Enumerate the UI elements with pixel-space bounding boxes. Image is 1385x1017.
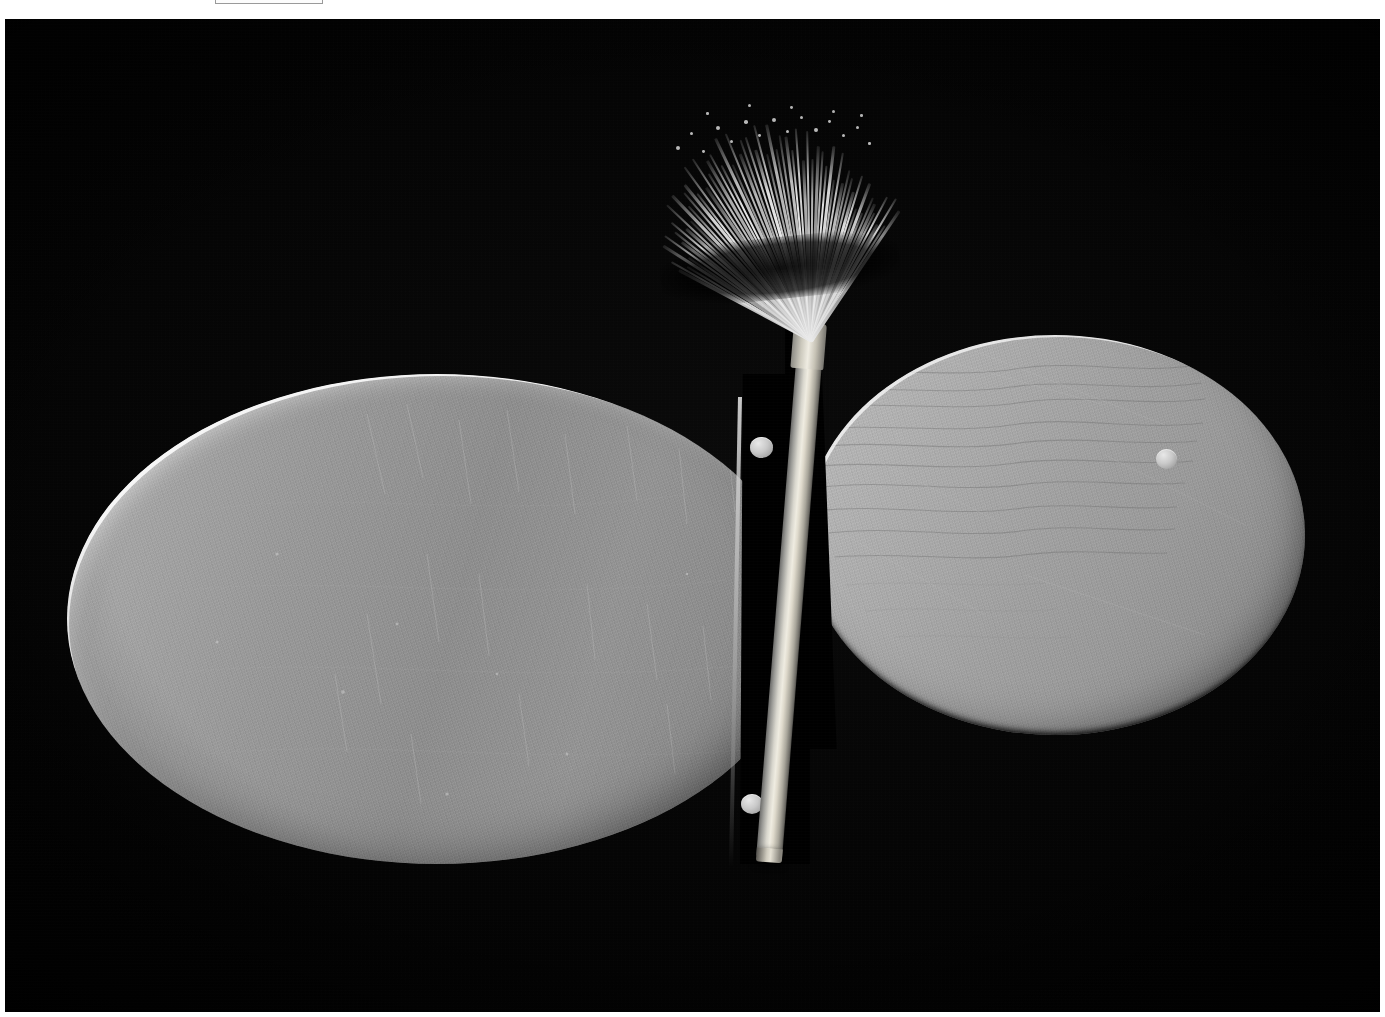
photograph-frame bbox=[5, 19, 1380, 1012]
photograph bbox=[5, 19, 1380, 1012]
bristle-tip-speck bbox=[856, 126, 859, 129]
bristle-tip-speck bbox=[702, 150, 705, 153]
handle-tip bbox=[756, 847, 783, 863]
bristle-tip-speck bbox=[690, 132, 693, 135]
rivet-left-top bbox=[750, 437, 773, 458]
bristle-tip-speck bbox=[730, 140, 733, 143]
bristle-tip-speck bbox=[772, 118, 776, 122]
bristle-tip-speck bbox=[832, 110, 835, 113]
bristle-tip-speck bbox=[800, 116, 803, 119]
right-plate bbox=[805, 335, 1305, 735]
bristle-tip-speck bbox=[786, 130, 789, 133]
bristle-tip-speck bbox=[716, 126, 720, 130]
left-plate bbox=[67, 374, 807, 864]
bristle-tip-speck bbox=[706, 112, 709, 115]
bristle-tip-speck bbox=[748, 104, 751, 107]
bristle-tip-speck bbox=[758, 134, 761, 137]
bristle-tip-speck bbox=[860, 114, 863, 117]
rivet-right bbox=[1156, 449, 1177, 469]
caption-box: …y…, …ng… bbox=[215, 0, 323, 4]
bristle-tip-speck bbox=[842, 134, 845, 137]
caption-strip: …y…, …ng… …g……, …y, …y, … bbox=[0, 0, 1385, 16]
bristle-tip-speck bbox=[814, 128, 818, 132]
bristle-tip-speck bbox=[676, 146, 680, 150]
bristle-tip-speck bbox=[828, 120, 831, 123]
bristle-tip-speck bbox=[790, 106, 793, 109]
bristle-tip-speck bbox=[744, 120, 748, 124]
bristle-tip-speck bbox=[868, 142, 871, 145]
